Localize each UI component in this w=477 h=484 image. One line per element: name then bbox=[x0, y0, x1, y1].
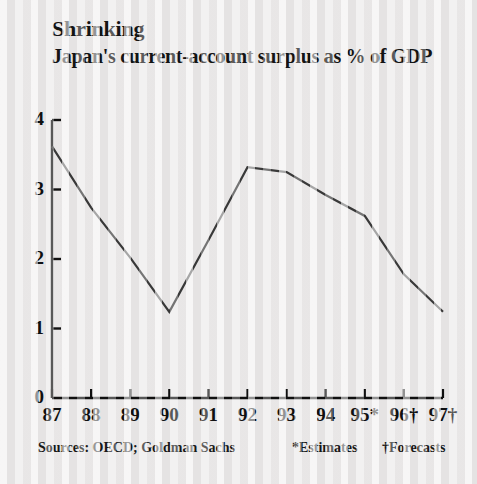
y-axis-tick-label: 2 bbox=[20, 247, 44, 269]
footer-sources: Sources: OECD; Goldman Sachs bbox=[38, 440, 235, 456]
y-axis-tick-label: 4 bbox=[20, 108, 44, 130]
x-axis-tick-label: 89 bbox=[121, 404, 140, 426]
chart-figure: Shrinking Japan's current-account surplu… bbox=[0, 0, 477, 484]
x-axis-tick-label: 90 bbox=[160, 404, 179, 426]
y-axis-tick-label: 0 bbox=[20, 386, 44, 408]
x-axis-tick-label: 87 bbox=[43, 404, 62, 426]
x-axis-tick-label: 94 bbox=[316, 404, 335, 426]
x-axis-tick-label: 88 bbox=[82, 404, 101, 426]
x-axis-ticks bbox=[52, 389, 443, 398]
data-series-line bbox=[52, 146, 443, 311]
x-axis-tick-label: 97† bbox=[429, 404, 458, 426]
y-axis-ticks bbox=[52, 120, 61, 329]
x-axis-tick-label: 91 bbox=[199, 404, 218, 426]
x-axis-tick-label: 92 bbox=[238, 404, 257, 426]
x-axis-tick-label: 96† bbox=[390, 404, 419, 426]
y-axis-tick-label: 3 bbox=[20, 178, 44, 200]
x-axis-tick-label: 95* bbox=[351, 404, 380, 426]
footer-estimates-note: *Estimates bbox=[292, 440, 357, 456]
x-axis-tick-label: 93 bbox=[277, 404, 296, 426]
y-axis-tick-label: 1 bbox=[20, 317, 44, 339]
footer-forecasts-note: †Forecasts bbox=[382, 440, 446, 456]
